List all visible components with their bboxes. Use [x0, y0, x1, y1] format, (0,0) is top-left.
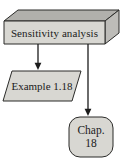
sensitivity-box-top-face: [4, 10, 119, 21]
arrow-to-chapter-head-icon: [85, 109, 92, 116]
flowchart-diagram: Sensitivity analysis Example 1.18 Chap. …: [0, 0, 123, 167]
diagram-shapes: [0, 0, 123, 167]
arrow-to-example-head-icon: [35, 63, 42, 70]
chapter-rounded-box-shape: [69, 117, 113, 157]
example-parallelogram-shape: [3, 71, 81, 101]
sensitivity-box-front-face: [4, 21, 105, 44]
